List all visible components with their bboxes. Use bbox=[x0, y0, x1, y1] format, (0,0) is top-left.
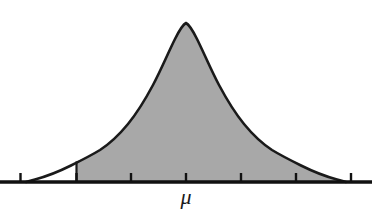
shaded-probability-area bbox=[76, 23, 346, 182]
normal-distribution-figure: μ bbox=[0, 0, 372, 215]
normal-curve-chart bbox=[0, 0, 372, 215]
